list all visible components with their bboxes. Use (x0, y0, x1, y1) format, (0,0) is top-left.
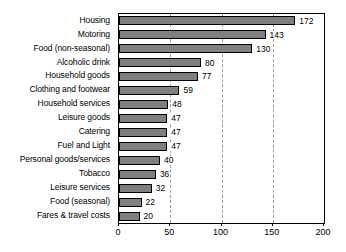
bar-row: 32 (119, 181, 324, 195)
category-label: Tobacco (0, 166, 114, 180)
bar[interactable] (119, 86, 179, 95)
bar[interactable] (119, 184, 152, 193)
bar-value-label: 47 (170, 142, 181, 151)
plot-area: 172143130807759484747474036322220 (118, 13, 325, 224)
bar-chart: HousingMotoringFood (non-seasonal)Alcoho… (0, 0, 346, 252)
x-tick-label: 50 (164, 228, 174, 237)
bar-value-label: 77 (201, 72, 212, 81)
bar[interactable] (119, 128, 167, 137)
x-tick-mark (272, 223, 273, 226)
bar-value-label: 59 (182, 86, 193, 95)
bar-row: 47 (119, 112, 324, 126)
category-label: Fares & travel costs (0, 208, 114, 222)
category-label: Leisure goods (0, 111, 114, 125)
bar-row: 36 (119, 167, 324, 181)
x-tick-label: 200 (315, 228, 330, 237)
bar[interactable] (119, 16, 295, 25)
category-label: Clothing and footwear (0, 83, 114, 97)
bar-value-label: 80 (204, 59, 215, 68)
bar-row: 40 (119, 153, 324, 167)
bar-row: 20 (119, 209, 324, 223)
x-tick-label: 150 (264, 228, 279, 237)
bar-value-label: 40 (163, 156, 174, 165)
bar-value-label: 22 (145, 198, 156, 207)
category-label: Household services (0, 97, 114, 111)
x-tick-mark (221, 223, 222, 226)
bar[interactable] (119, 170, 156, 179)
bar[interactable] (119, 30, 266, 39)
bar[interactable] (119, 72, 198, 81)
bar-value-label: 47 (170, 114, 181, 123)
bar-value-label: 20 (143, 212, 154, 221)
x-tick-label: 100 (213, 228, 228, 237)
bar[interactable] (119, 58, 201, 67)
bar-row: 59 (119, 84, 324, 98)
bar-value-label: 172 (298, 17, 314, 26)
bar-row: 130 (119, 42, 324, 56)
category-label: Catering (0, 125, 114, 139)
bar-row: 47 (119, 139, 324, 153)
category-label: Fuel and Light (0, 138, 114, 152)
bar-value-label: 130 (255, 45, 271, 54)
x-tick-mark (118, 223, 119, 226)
bar-value-label: 47 (170, 128, 181, 137)
category-axis: HousingMotoringFood (non-seasonal)Alcoho… (0, 13, 114, 222)
bar-row: 80 (119, 56, 324, 70)
bar-value-label: 48 (171, 100, 182, 109)
bar-value-label: 143 (269, 31, 285, 40)
bar[interactable] (119, 198, 142, 207)
x-axis: 050100150200 (118, 223, 325, 247)
x-tick-mark (169, 223, 170, 226)
bar[interactable] (119, 142, 167, 151)
category-label: Alcoholic drink (0, 55, 114, 69)
bar-row: 48 (119, 98, 324, 112)
bar-row: 143 (119, 28, 324, 42)
category-label: Housing (0, 13, 114, 27)
bars-layer: 172143130807759484747474036322220 (119, 14, 324, 223)
category-label: Motoring (0, 27, 114, 41)
bar-row: 47 (119, 126, 324, 140)
x-tick-label: 0 (115, 228, 120, 237)
bar-value-label: 36 (159, 170, 170, 179)
category-label: Personal goods/services (0, 152, 114, 166)
category-label: Household goods (0, 69, 114, 83)
bar[interactable] (119, 212, 140, 221)
bar-row: 22 (119, 195, 324, 209)
category-label: Leisure services (0, 180, 114, 194)
bar-row: 77 (119, 70, 324, 84)
bar-value-label: 32 (155, 184, 166, 193)
x-tick-mark (323, 223, 324, 226)
bar[interactable] (119, 156, 160, 165)
bar[interactable] (119, 114, 167, 123)
bar-row: 172 (119, 14, 324, 28)
category-label: Food (seasonal) (0, 194, 114, 208)
bar[interactable] (119, 44, 252, 53)
category-label: Food (non-seasonal) (0, 41, 114, 55)
bar[interactable] (119, 100, 168, 109)
